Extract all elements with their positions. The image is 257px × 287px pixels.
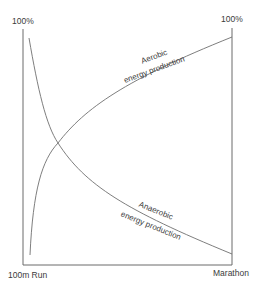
right-top-percent-label: 100% <box>221 14 243 24</box>
x-label-100m-run: 100m Run <box>8 270 47 280</box>
left-top-percent-label: 100% <box>12 16 34 26</box>
energy-production-diagram: 100% 100% 100m Run Marathon Aerobic ener… <box>0 0 257 287</box>
x-label-marathon: Marathon <box>213 268 249 278</box>
